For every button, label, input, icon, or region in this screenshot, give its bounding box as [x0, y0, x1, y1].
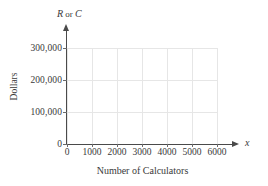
y-axis-variable-conjunction: or	[63, 9, 75, 19]
gridline-horizontal	[67, 48, 218, 49]
y-axis-variable-second: C	[75, 8, 82, 19]
x-tick-label: 0	[65, 147, 70, 157]
x-axis-variable-label: x	[245, 137, 249, 149]
x-tick-label: 6000	[208, 147, 227, 157]
gridline-vertical	[92, 48, 93, 144]
gridline-vertical	[217, 48, 218, 144]
plot-area	[67, 48, 218, 144]
y-tick-mark	[63, 48, 67, 49]
y-tick-label: 300,000	[0, 43, 62, 53]
y-tick-mark	[63, 144, 67, 145]
y-tick-mark	[63, 112, 67, 113]
gridline-vertical	[192, 48, 193, 144]
x-tick-label: 4000	[158, 147, 177, 157]
x-axis-arrow-icon	[232, 141, 239, 147]
y-axis-title: Dollars	[9, 59, 20, 115]
gridline-horizontal	[67, 112, 218, 113]
gridline-horizontal	[67, 80, 218, 81]
x-tick-label: 5000	[183, 147, 202, 157]
gridline-vertical	[117, 48, 118, 144]
gridline-vertical	[167, 48, 168, 144]
gridline-vertical	[142, 48, 143, 144]
y-axis-arrow-icon	[63, 24, 69, 31]
y-tick-mark	[63, 80, 67, 81]
x-axis-title: Number of Calculators	[67, 165, 218, 177]
chart-figure: R or C 300,000 200,000 100,000 0 0 1000 …	[0, 0, 268, 186]
y-tick-label: 0	[0, 139, 62, 149]
x-tick-label: 2000	[108, 147, 127, 157]
x-tick-label: 1000	[83, 147, 102, 157]
x-tick-label: 3000	[133, 147, 152, 157]
